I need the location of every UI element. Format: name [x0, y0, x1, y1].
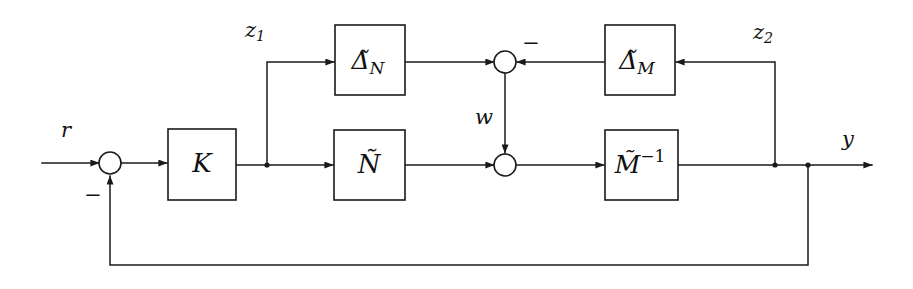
wire-z2-to-deltam: [676, 62, 775, 165]
summing-junction-top: [494, 51, 516, 73]
signal-label-z1: z1: [244, 18, 265, 45]
summing-junction-bottom: [494, 154, 516, 176]
sign-label-minus-top: −: [522, 31, 540, 55]
sign-label-minus-input: −: [84, 183, 102, 207]
block-k-label: K: [191, 148, 213, 178]
wire-branch-to-deltan: [267, 62, 334, 165]
branch-point-y: [805, 162, 810, 167]
summing-junction-input: [99, 152, 121, 174]
diagram-canvas: Δ̃N Δ̃M K Ñ M̃−1 r z1 z2 w y − −: [0, 0, 913, 289]
block-n-tilde-label: Ñ: [357, 148, 382, 179]
signal-label-z2: z2: [752, 20, 773, 47]
branch-point-z1: [264, 162, 269, 167]
signal-label-w: w: [475, 105, 493, 129]
block-diagram: Δ̃N Δ̃M K Ñ M̃−1 r z1 z2 w y − −: [0, 0, 913, 289]
signal-label-r: r: [61, 118, 73, 142]
signal-label-y: y: [841, 127, 855, 151]
